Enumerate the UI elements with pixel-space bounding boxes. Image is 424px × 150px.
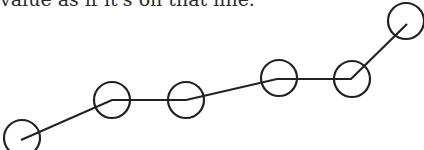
point-circle-6: [388, 3, 424, 39]
polyline-diagram: [0, 0, 424, 150]
point-markers: [4, 3, 424, 150]
trend-line: [21, 24, 407, 140]
